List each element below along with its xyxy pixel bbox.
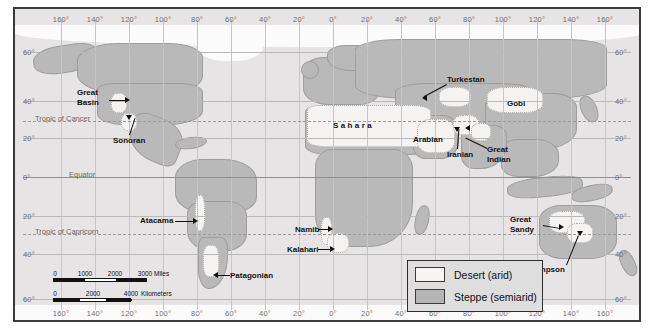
label-gobi: Gobi	[507, 99, 525, 109]
lon-tick-top-140e: 140°	[563, 15, 579, 24]
scale-miles-bar	[53, 278, 147, 282]
lon-line-120w	[129, 19, 130, 310]
scale-km-seg-2	[106, 299, 132, 301]
lon-tick-top-120w: 120°	[121, 15, 137, 24]
label-kalahari: Kalahari	[287, 245, 319, 255]
label-great-indian: Great Indian	[487, 145, 511, 164]
tropic-of-cancer-line	[23, 121, 631, 122]
label-great-basin: Great Basin	[77, 88, 99, 107]
world-map: Tropic of Cancer Equator Tropic of Capri…	[13, 7, 641, 322]
equator-label: Equator	[67, 170, 97, 179]
lon-tick-top-20e: 20°	[361, 15, 373, 24]
lon-tick-top-80e: 80°	[463, 15, 475, 24]
desert-turkestan	[439, 87, 471, 107]
lon-tick-bottom-140w: 140°	[87, 309, 103, 318]
lat-tick-right-20n: 20°	[615, 134, 627, 143]
lat-tick-right-40s: 40°	[615, 250, 627, 259]
tropic-of-capricorn-label: Tropic of Capricorn	[33, 227, 101, 236]
map-legend: Desert (arid) Steppe (semiarid)	[407, 260, 543, 312]
lat-tick-left-60s: 60°	[23, 295, 35, 304]
leader-patagonian	[218, 275, 230, 276]
scale-km-numbers: 0 2000 4000 Kilometers	[53, 290, 177, 298]
label-patagonian: Patagonian	[230, 271, 273, 281]
lon-tick-top-0: 0°	[329, 15, 337, 24]
legend-swatch-steppe	[415, 289, 445, 304]
arrow-iranian	[454, 127, 460, 132]
lon-line-20e	[367, 19, 368, 310]
legend-label-steppe: Steppe (semiarid)	[454, 291, 537, 303]
lon-tick-top-80w: 80°	[191, 15, 203, 24]
lon-line-60w	[231, 19, 232, 310]
lon-line-40e	[401, 19, 402, 310]
scale-miles-seg-1	[54, 279, 85, 281]
lon-tick-top-40w: 40°	[259, 15, 271, 24]
lon-tick-bottom-120w: 120°	[121, 309, 137, 318]
lon-tick-top-20w: 20°	[293, 15, 305, 24]
lat-tick-left-40s: 40°	[23, 250, 35, 259]
scale-km-tick-2000: 2000	[86, 290, 100, 297]
tropic-of-capricorn-line	[23, 234, 631, 235]
lat-line-60n	[23, 52, 631, 53]
arrow-turkestan	[422, 95, 427, 101]
lon-tick-bottom-20w: 20°	[293, 309, 305, 318]
label-turkestan: Turkestan	[447, 75, 485, 85]
lon-tick-top-60w: 60°	[225, 15, 237, 24]
legend-row-steppe: Steppe (semiarid)	[415, 289, 537, 304]
lat-tick-right-60s: 60°	[615, 295, 627, 304]
label-namib: Namib	[295, 225, 319, 235]
legend-swatch-desert	[415, 267, 445, 282]
arrow-great-basin	[125, 97, 130, 103]
lon-tick-top-60e: 60°	[429, 15, 441, 24]
arrow-kalahari	[330, 246, 335, 252]
lon-tick-top-100w: 100°	[155, 15, 171, 24]
desert-great-basin	[111, 93, 127, 113]
lon-tick-top-140w: 140°	[87, 15, 103, 24]
lon-line-140w	[95, 19, 96, 310]
antarctica-ice	[15, 305, 641, 322]
lon-line-160e	[605, 19, 606, 310]
legend-row-desert: Desert (arid)	[415, 267, 512, 282]
lon-tick-bottom-160e: 160°	[597, 309, 613, 318]
lat-tick-right-20s: 20°	[615, 212, 627, 221]
lat-tick-right-0: 0°	[615, 173, 623, 182]
lat-tick-left-20n: 20°	[23, 134, 35, 143]
scale-km-bar	[53, 298, 131, 302]
scale-miles-tick-0: 0	[53, 270, 57, 277]
scale-miles: 0 1000 2000 3000 Miles	[53, 270, 177, 287]
lon-tick-top-40e: 40°	[395, 15, 407, 24]
arrow-namib	[328, 226, 333, 232]
lon-tick-bottom-40e: 40°	[395, 309, 407, 318]
lon-tick-top-120e: 120°	[529, 15, 545, 24]
map-page: Tropic of Cancer Equator Tropic of Capri…	[0, 0, 654, 336]
lon-tick-top-160w: 160°	[53, 15, 69, 24]
label-sonoran: Sonoran	[113, 136, 145, 146]
lon-line-0	[333, 19, 334, 310]
lat-tick-left-0: 0°	[23, 173, 31, 182]
lon-tick-bottom-140e: 140°	[563, 309, 579, 318]
lat-tick-right-40n: 40°	[615, 97, 627, 106]
tropic-of-cancer-label: Tropic of Cancer	[33, 114, 92, 123]
arrow-great-sandy	[559, 224, 564, 230]
lon-tick-top-160e: 160°	[597, 15, 613, 24]
greenland-ice	[197, 27, 263, 61]
scale-km-seg-1	[54, 299, 80, 301]
leader-atacama	[175, 221, 195, 222]
scale-miles-tick-2000: 2000	[108, 270, 122, 277]
scale-miles-tick-3000: 3000	[138, 270, 152, 277]
label-sahara: Sahara	[333, 121, 374, 131]
lon-tick-bottom-40w: 40°	[259, 309, 271, 318]
legend-label-desert: Desert (arid)	[454, 269, 512, 281]
equator-line	[23, 177, 631, 178]
lon-line-100w	[163, 19, 164, 310]
lon-line-160w	[61, 19, 62, 310]
lon-tick-bottom-160w: 160°	[53, 309, 69, 318]
label-iranian: Iranian	[447, 150, 473, 160]
lon-line-80w	[197, 19, 198, 310]
lat-tick-left-20s: 20°	[23, 212, 35, 221]
scale-miles-seg-2	[116, 279, 147, 281]
lon-line-40w	[265, 19, 266, 310]
lat-tick-left-60n: 60°	[23, 48, 35, 57]
label-atacama: Atacama	[140, 216, 173, 226]
lat-line-40n	[23, 101, 631, 102]
scale-miles-tick-1000: 1000	[78, 270, 92, 277]
